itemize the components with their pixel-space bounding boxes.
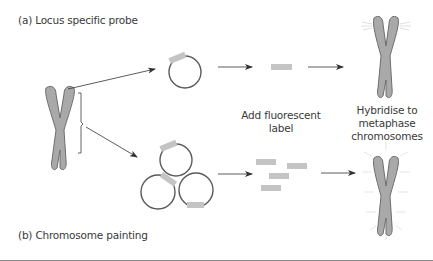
source-chromosome-icon [46,86,75,169]
labeled-probes-b [256,159,307,191]
panel-a-title: (a) Locus specific probe [18,14,138,26]
result-chromosome-b-icon [362,142,410,240]
arrow-b1 [86,127,137,157]
arrow-a1 [68,69,155,89]
plasmid-cluster-b-icon [141,140,213,209]
region-bracket-icon [78,93,83,153]
panel-b-title: (b) Chromosome painting [18,229,148,241]
labeled-probe-a [271,64,292,70]
plasmid-a-icon [168,52,201,88]
step-label-add-fluorescent: Add fluorescent label [240,109,322,135]
step-label-hybridise: Hybridise to metaphase chromosomes [348,104,426,143]
result-chromosome-a-icon [361,16,411,97]
